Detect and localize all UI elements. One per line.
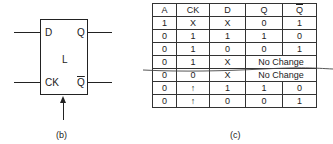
caption-c: (c) xyxy=(230,130,241,140)
handwritten-strike-line xyxy=(143,67,333,73)
async-input-line xyxy=(63,100,64,120)
caption-b: (b) xyxy=(56,130,67,140)
header-qbar: Q xyxy=(283,4,317,17)
ck-label: CK xyxy=(45,78,59,88)
table-row: 0 ↑ 0 0 1 xyxy=(153,95,317,108)
cell: 0 xyxy=(283,82,317,95)
cell: 0 xyxy=(153,95,177,108)
table-row: 0 ↑ 1 1 0 xyxy=(153,82,317,95)
cell: 0 xyxy=(210,95,246,108)
cell: 0 xyxy=(283,30,317,43)
qbar-output-line xyxy=(88,82,112,83)
cell: X xyxy=(177,17,210,30)
header-q: Q xyxy=(246,4,283,17)
cell: X xyxy=(210,17,246,30)
cell: 1 xyxy=(177,30,210,43)
cell: 1 xyxy=(246,30,283,43)
ck-input-line xyxy=(14,82,40,83)
cell: 1 xyxy=(153,17,177,30)
flip-flop-symbol: D Q L CK Q (b) xyxy=(0,0,140,144)
table-header-row: A CK D Q Q xyxy=(153,4,317,17)
header-ck: CK xyxy=(177,4,210,17)
cell: 0 xyxy=(246,17,283,30)
cell: 1 xyxy=(283,17,317,30)
center-label: L xyxy=(62,55,68,65)
cell: ↑ xyxy=(177,82,210,95)
cell: 0 xyxy=(153,82,177,95)
q-label: Q xyxy=(77,28,85,38)
cell: 0 xyxy=(246,95,283,108)
d-label: D xyxy=(45,28,52,38)
cell: 1 xyxy=(177,43,210,56)
q-output-line xyxy=(88,32,112,33)
cell: 1 xyxy=(246,82,283,95)
table-row: 0 1 0 0 1 xyxy=(153,43,317,56)
cell: 1 xyxy=(283,43,317,56)
cell: 0 xyxy=(153,30,177,43)
qbar-label: Q xyxy=(77,78,85,88)
d-input-line xyxy=(14,32,40,33)
header-d: D xyxy=(210,4,246,17)
cell: 0 xyxy=(210,43,246,56)
cell: 1 xyxy=(210,82,246,95)
cell: 1 xyxy=(283,95,317,108)
cell: 0 xyxy=(246,43,283,56)
table-row: 0 1 1 1 0 xyxy=(153,30,317,43)
cell: ↑ xyxy=(177,95,210,108)
table-row: 1 X X 0 1 xyxy=(153,17,317,30)
cell: 0 xyxy=(153,43,177,56)
truth-table: A CK D Q Q 1 X X 0 1 0 1 1 1 0 0 1 0 0 1… xyxy=(152,3,317,108)
cell: 1 xyxy=(210,30,246,43)
header-a: A xyxy=(153,4,177,17)
